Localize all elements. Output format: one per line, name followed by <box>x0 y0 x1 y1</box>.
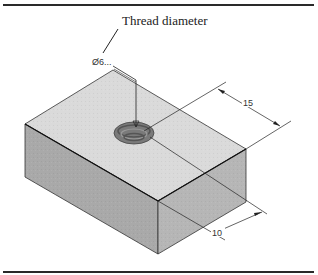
threaded-hole <box>114 122 154 144</box>
width-dimension-label: 15 <box>243 98 253 108</box>
callout-leader <box>103 29 118 53</box>
threaded-block-drawing: Ø6... 15 10 <box>0 0 318 275</box>
depth-dimension-label: 10 <box>212 228 222 238</box>
block <box>25 70 246 254</box>
bottom-rule <box>3 271 314 273</box>
thread-dimension-label: Ø6... <box>92 57 112 67</box>
